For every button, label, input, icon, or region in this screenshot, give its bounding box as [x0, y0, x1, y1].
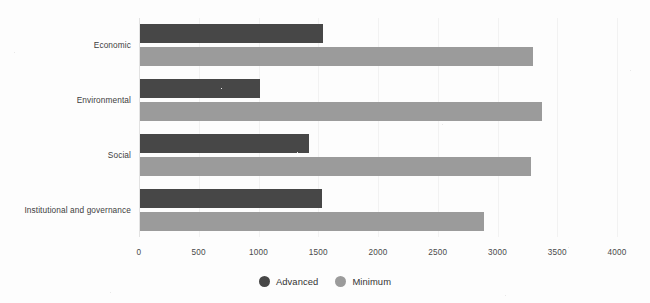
category-label-environmental: Environmental — [0, 95, 131, 105]
bar-advanced[interactable] — [139, 24, 323, 43]
x-tick-label: 1500 — [309, 248, 328, 257]
category-label-text: Environmental — [77, 95, 131, 105]
x-tick-label: 4000 — [607, 248, 626, 257]
bar-advanced[interactable] — [139, 134, 309, 153]
plot-area — [139, 18, 617, 237]
legend-label: Minimum — [352, 276, 391, 287]
circle-swatch-icon — [335, 276, 346, 287]
legend-item-advanced[interactable]: Advanced — [259, 276, 319, 287]
bar-chart: Economic Environmental Social Institutio… — [0, 0, 650, 303]
scan-speckle — [221, 88, 222, 89]
legend-label: Advanced — [276, 276, 319, 287]
scan-speckle — [110, 292, 111, 293]
x-tick-label: 2000 — [368, 248, 387, 257]
chart-legend: Advanced Minimum — [0, 276, 650, 287]
legend-item-minimum[interactable]: Minimum — [335, 276, 391, 287]
x-tick-label: 3000 — [488, 248, 507, 257]
scan-speckle — [505, 295, 506, 296]
scan-speckle — [568, 247, 569, 248]
bar-advanced[interactable] — [139, 79, 260, 98]
bar-minimum[interactable] — [139, 157, 531, 176]
bar-minimum[interactable] — [139, 212, 484, 231]
circle-swatch-icon — [259, 276, 270, 287]
scan-speckle — [14, 52, 15, 53]
bar-group — [139, 134, 617, 176]
category-label-text: Institutional and governance — [24, 205, 131, 215]
category-label-text: Social — [108, 150, 131, 160]
x-tick-label: 2500 — [428, 248, 447, 257]
x-tick-label: 1000 — [249, 248, 268, 257]
category-label-text: Economic — [94, 40, 131, 50]
scan-speckle — [630, 70, 631, 71]
x-tick-label: 3500 — [548, 248, 567, 257]
y-axis-line — [139, 18, 140, 237]
x-tick-label: 500 — [192, 248, 206, 257]
x-tick-label: 0 — [137, 248, 142, 257]
bar-group — [139, 189, 617, 231]
scan-speckle — [442, 124, 443, 125]
bar-minimum[interactable] — [139, 102, 542, 121]
gridline — [617, 18, 618, 237]
bar-minimum[interactable] — [139, 47, 533, 66]
scan-speckle — [297, 152, 298, 153]
category-label-economic: Economic — [0, 40, 131, 50]
bar-group — [139, 79, 617, 121]
bar-advanced[interactable] — [139, 189, 322, 208]
category-label-social: Social — [0, 150, 131, 160]
category-label-institutional-and-governance: Institutional and governance — [0, 205, 131, 215]
bar-group — [139, 24, 617, 66]
